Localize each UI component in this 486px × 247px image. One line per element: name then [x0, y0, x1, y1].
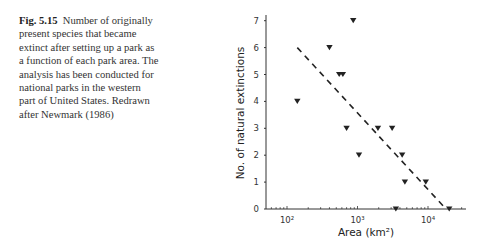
- x-axis-title: Area (km²): [338, 226, 394, 238]
- data-points: [294, 18, 452, 212]
- y-tick-label: 2: [254, 150, 259, 160]
- data-point: [350, 18, 356, 23]
- data-point: [402, 180, 408, 185]
- scatter-chart: 0123456710²10³10⁴ Area (km²) No. of natu…: [0, 0, 486, 247]
- y-tick-label: 6: [254, 43, 259, 53]
- y-tick-label: 3: [254, 123, 259, 133]
- data-point: [389, 126, 395, 131]
- data-point: [399, 153, 405, 158]
- data-point: [375, 126, 381, 131]
- y-axis-title: No. of natural extinctions: [234, 47, 246, 180]
- x-tick-label: 10⁴: [421, 215, 436, 225]
- y-tick-label: 4: [254, 96, 259, 106]
- data-point: [343, 126, 349, 131]
- data-point: [423, 180, 429, 185]
- y-tick-label: 1: [254, 177, 259, 187]
- data-point: [294, 99, 300, 104]
- x-tick-label: 10²: [280, 215, 294, 225]
- trend-line: [297, 48, 446, 209]
- x-tick-label: 10³: [350, 215, 364, 225]
- y-tick-label: 7: [254, 16, 259, 26]
- data-point: [356, 153, 362, 158]
- axes: 0123456710²10³10⁴: [254, 15, 466, 225]
- y-tick-label: 0: [254, 204, 259, 214]
- y-tick-label: 5: [254, 70, 259, 80]
- data-point: [326, 45, 332, 50]
